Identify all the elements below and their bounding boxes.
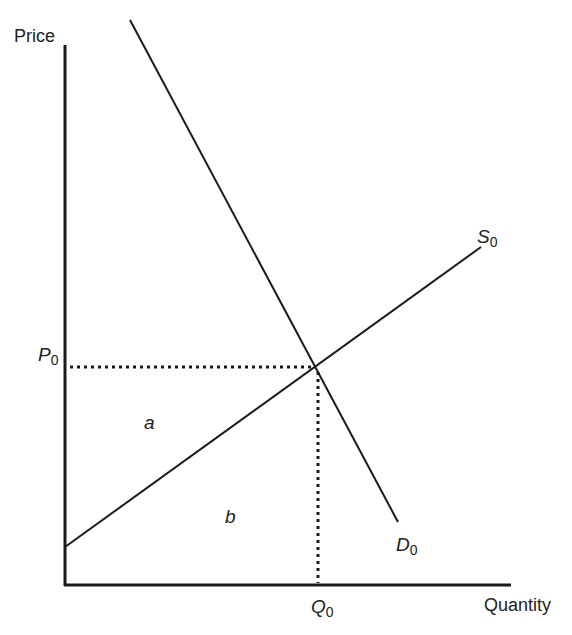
region-b-label: b xyxy=(225,506,236,527)
equilibrium-price-label: P0 xyxy=(38,344,59,368)
demand-label: D0 xyxy=(396,534,418,558)
equilibrium-quantity-label: Q0 xyxy=(311,596,334,620)
y-axis-label: Price xyxy=(14,26,55,46)
x-axis-label: Quantity xyxy=(484,595,551,615)
region-a-label: a xyxy=(144,412,155,433)
supply-curve xyxy=(65,247,481,547)
supply-demand-diagram: Price Quantity S0 D0 P0 Q0 a b xyxy=(0,0,572,635)
demand-curve xyxy=(130,20,398,522)
supply-label: S0 xyxy=(477,226,498,250)
